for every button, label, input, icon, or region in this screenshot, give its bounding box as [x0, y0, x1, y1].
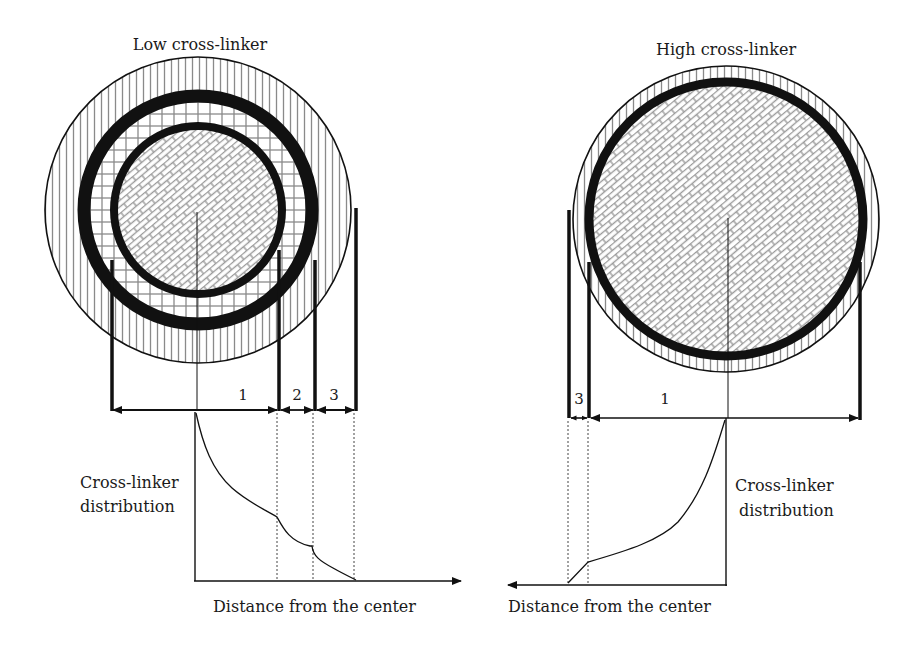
- right-zone-label-3: 3: [574, 390, 584, 408]
- right-x-label: Distance from the center: [508, 597, 711, 616]
- left-zone-label-2: 2: [292, 386, 302, 404]
- right-y-label-line2: distribution: [739, 501, 834, 520]
- right-zone-guides: [568, 421, 588, 584]
- left-distribution-chart: [194, 412, 461, 581]
- left-y-label-line2: distribution: [80, 497, 175, 516]
- left-zone-label-1: 1: [238, 386, 248, 404]
- left-panel: Low cross-linker 1 2: [45, 35, 461, 616]
- left-zone-label-3: 3: [329, 386, 339, 404]
- cross-linker-diagram: Low cross-linker 1 2: [0, 0, 919, 647]
- left-x-label: Distance from the center: [213, 597, 416, 616]
- right-y-label-line1: Cross-linker: [735, 476, 834, 495]
- left-panel-title: Low cross-linker: [133, 35, 268, 54]
- left-y-label-line1: Cross-linker: [80, 473, 179, 492]
- left-distribution-curve: [196, 413, 356, 580]
- right-distribution-curve: [568, 420, 725, 583]
- right-bead: [573, 66, 879, 418]
- left-bead: [45, 57, 351, 410]
- right-zone-label-1: 1: [660, 390, 670, 408]
- right-panel: High cross-linker 3 1 Cross-: [508, 40, 879, 616]
- right-panel-title: High cross-linker: [656, 40, 796, 59]
- right-distribution-chart: [508, 418, 727, 586]
